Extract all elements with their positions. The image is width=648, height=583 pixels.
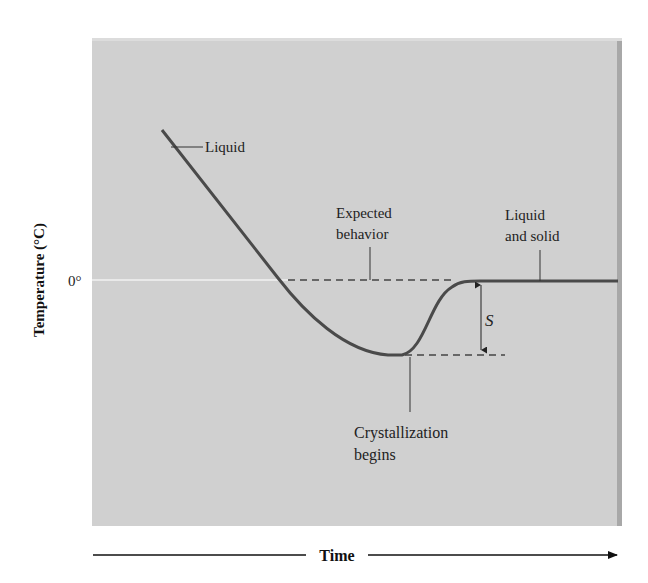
- liquid-solid-label-line2: and solid: [505, 228, 560, 244]
- expected-label-line2: behavior: [336, 226, 388, 242]
- y-axis-label: Temperature (°C): [31, 223, 48, 337]
- expected-label-line1: Expected: [336, 205, 392, 221]
- crystallization-label-line2: begins: [354, 446, 396, 464]
- s-label: S: [485, 311, 494, 330]
- crystallization-label-line1: Crystallization: [354, 424, 448, 442]
- liquid-label: Liquid: [205, 139, 245, 155]
- x-axis-label: Time: [319, 547, 354, 564]
- liquid-solid-label-line1: Liquid: [505, 207, 545, 223]
- supercooling-diagram: Liquid Expected behavior Liquid and soli…: [0, 0, 648, 583]
- zero-tick-label: 0°: [68, 273, 82, 289]
